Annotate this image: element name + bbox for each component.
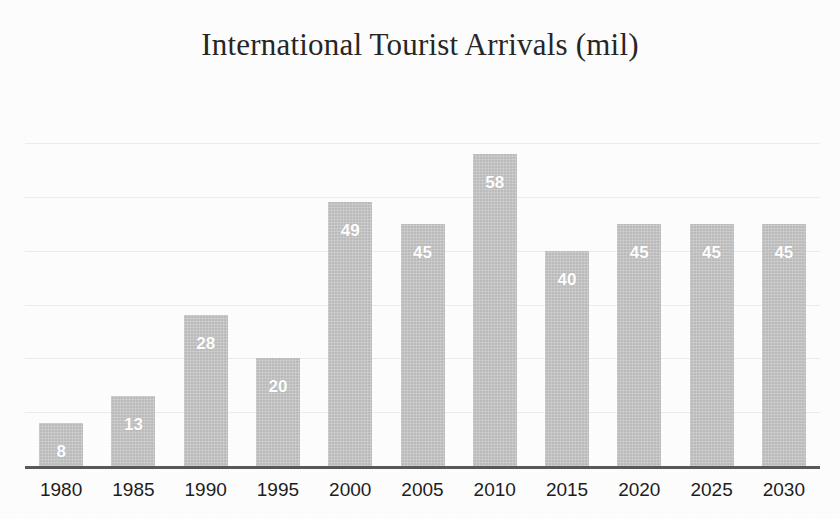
bar[interactable] bbox=[473, 154, 517, 466]
x-tick-label: 1990 bbox=[170, 479, 242, 501]
x-tick-label: 1980 bbox=[25, 479, 97, 501]
bar-group: 45 bbox=[401, 224, 445, 466]
bar-group: 49 bbox=[328, 202, 372, 466]
bar-value-label: 45 bbox=[762, 244, 806, 261]
bar-value-label: 28 bbox=[184, 335, 228, 352]
x-tick-label: 2010 bbox=[459, 479, 531, 501]
x-tick-label: 2015 bbox=[531, 479, 603, 501]
bar[interactable] bbox=[328, 202, 372, 466]
bar-group: 58 bbox=[473, 154, 517, 466]
bar-group: 40 bbox=[545, 251, 589, 466]
bar-value-label: 45 bbox=[617, 244, 661, 261]
bar-value-label: 45 bbox=[401, 244, 445, 261]
x-tick-label: 2000 bbox=[314, 479, 386, 501]
bar-value-label: 13 bbox=[111, 416, 155, 433]
x-axis-tick-labels: 1980198519901995200020052010201520202025… bbox=[25, 479, 820, 509]
bar-group: 28 bbox=[184, 315, 228, 466]
bars-layer: 813282049455840454545 bbox=[25, 100, 820, 466]
x-axis-line bbox=[25, 466, 820, 469]
bar-value-label: 49 bbox=[328, 222, 372, 239]
bar-value-label: 40 bbox=[545, 271, 589, 288]
bar-group: 13 bbox=[111, 396, 155, 466]
bar-group: 45 bbox=[617, 224, 661, 466]
bar-group: 20 bbox=[256, 358, 300, 466]
bar-value-label: 45 bbox=[690, 244, 734, 261]
bar-chart: International Tourist Arrivals (mil) 813… bbox=[0, 0, 840, 519]
x-tick-label: 2005 bbox=[386, 479, 458, 501]
bar-group: 45 bbox=[690, 224, 734, 466]
bar-group: 45 bbox=[762, 224, 806, 466]
x-tick-label: 2020 bbox=[603, 479, 675, 501]
x-tick-label: 1995 bbox=[242, 479, 314, 501]
bar-value-label: 20 bbox=[256, 378, 300, 395]
bar[interactable] bbox=[256, 358, 300, 466]
x-tick-label: 1985 bbox=[97, 479, 169, 501]
bar-value-label: 58 bbox=[473, 174, 517, 191]
bar-value-label: 8 bbox=[39, 443, 83, 460]
x-tick-label: 2030 bbox=[748, 479, 820, 501]
chart-title: International Tourist Arrivals (mil) bbox=[0, 27, 840, 63]
bar-group: 8 bbox=[39, 423, 83, 466]
plot-area: 813282049455840454545 bbox=[25, 100, 820, 466]
x-tick-label: 2025 bbox=[675, 479, 747, 501]
